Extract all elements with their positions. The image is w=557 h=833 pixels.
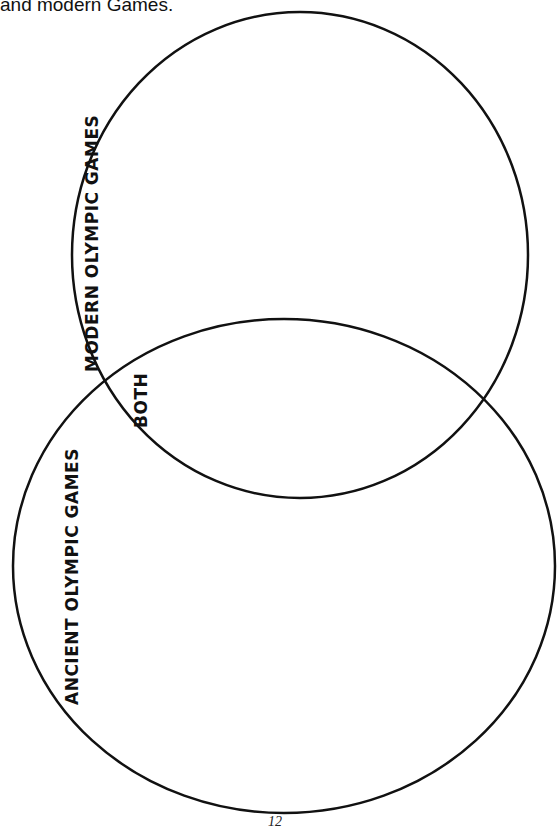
ancient-games-label: ANCIENT OLYMPIC GAMES: [62, 448, 82, 705]
page-number: 12: [268, 814, 282, 830]
both-label: BOTH: [131, 373, 151, 428]
ancient-games-circle: [13, 319, 555, 813]
modern-games-label: MODERN OLYMPIC GAMES: [82, 115, 102, 372]
